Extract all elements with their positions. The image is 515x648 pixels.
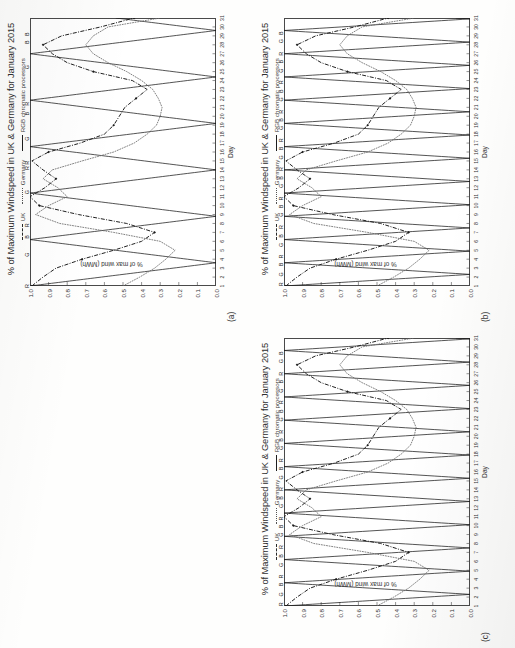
x-tick-label: 28 [473, 42, 479, 48]
panel-label-b: (b) [480, 312, 490, 322]
rgb-marker-b: B [278, 438, 284, 442]
rgb-marker-b: B [278, 583, 284, 587]
x-tick-label: 12 [473, 185, 479, 191]
x-tick-label: 31 [219, 15, 225, 21]
x-tick-label: 3 [219, 267, 225, 270]
chart-title-c: % of Maximum Windspeed in UK & Germany f… [260, 334, 270, 604]
rgb-marker-b: B [278, 554, 284, 558]
x-axis-label-a: Day [227, 18, 234, 286]
x-tick-label: 30 [219, 24, 225, 30]
y-tick-label: 0.1 [194, 289, 201, 298]
x-tick-label: 14 [473, 167, 479, 173]
rgb-marker-b: B [278, 60, 284, 64]
rgb-marker-g: G [278, 272, 284, 276]
x-tick-label: 24 [473, 398, 479, 404]
rgb-marker-g: G [278, 39, 284, 43]
x-tick-label: 17 [473, 140, 479, 146]
x-tick-label: 5 [219, 249, 225, 252]
x-tick-label: 6 [473, 240, 479, 243]
x-tick-label: 11 [219, 194, 225, 199]
y-tick-label: 0.1 [448, 289, 455, 298]
rgb-marker-r: R [24, 161, 30, 165]
x-tick-label: 23 [219, 87, 225, 93]
rgb-marker-r: R [278, 372, 284, 376]
x-tick-label: 13 [473, 496, 479, 502]
legend-label-rgb: RGB chromatic processors [19, 58, 26, 132]
rgb-marker-r: R [278, 138, 284, 142]
rgb-marker-g: G [278, 155, 284, 159]
rgb-marker-r: R [24, 102, 30, 106]
y-tick-label: 0.6 [101, 289, 108, 298]
rgb-marker-r: R [278, 167, 284, 171]
x-tick-label: 26 [473, 380, 479, 386]
x-tick-label: 25 [473, 69, 479, 75]
rgb-marker-b: B [278, 409, 284, 413]
rgb-marker-b: B [278, 380, 284, 384]
x-tick-label: 6 [473, 560, 479, 563]
y-axis-label-b: % of max wind (MWh) [306, 261, 426, 268]
x-tick-label: 27 [473, 371, 479, 377]
x-tick-label: 29 [473, 353, 479, 359]
chart-legend-a: UK Germany RGB chromatic processors [19, 14, 26, 284]
x-tick-label: 20 [473, 433, 479, 439]
x-tick-label: 3 [473, 587, 479, 590]
x-tick-label: 8 [219, 222, 225, 225]
x-tick-label: 22 [219, 96, 225, 102]
x-tick-label: 18 [473, 131, 479, 137]
y-tick-label: 1.0 [281, 609, 288, 618]
x-axis-label-c: Day [481, 338, 488, 606]
x-tick-label: 7 [219, 231, 225, 234]
rgb-marker-r: R [278, 110, 284, 114]
x-tick-label: 16 [473, 149, 479, 155]
x-tick-label: 16 [219, 149, 225, 155]
chart-panel-c: (c) % of Maximum Windspeed in UK & Germa… [258, 326, 510, 644]
x-tick-label: 13 [473, 176, 479, 182]
rgb-marker-r: R [278, 458, 284, 462]
y-tick-label: 0.5 [374, 289, 381, 298]
x-tick-label: 1 [473, 285, 479, 288]
x-tick-label: 31 [473, 335, 479, 341]
rgb-marker-r: R [278, 197, 284, 201]
x-tick-label: 9 [473, 213, 479, 216]
rgb-marker-b: B [278, 263, 284, 267]
rgb-marker-g: G [278, 592, 284, 596]
x-tick-label: 15 [219, 158, 225, 164]
y-tick-label: 0.4 [138, 289, 145, 298]
rgb-marker-g: G [278, 243, 284, 247]
x-tick-label: 18 [219, 131, 225, 137]
rgb-marker-r: R [24, 284, 30, 288]
rgb-marker-r: R [24, 223, 30, 227]
x-tick-label: 22 [473, 416, 479, 422]
rgb-marker-b: B [24, 32, 30, 36]
panel-c-inner: (c) % of Maximum Windspeed in UK & Germa… [258, 326, 510, 644]
rgb-marker-g: G [278, 126, 284, 130]
scanned-page: (a) % of Maximum Windspeed in UK & Germa… [0, 0, 515, 648]
rgb-marker-g: G [278, 184, 284, 188]
x-tick-label: 28 [219, 42, 225, 48]
x-tick-label: 11 [473, 194, 479, 199]
x-tick-label: 4 [219, 258, 225, 261]
rgb-marker-b: B [278, 118, 284, 122]
x-tick-label: 23 [473, 87, 479, 93]
panel-label-c: (c) [480, 632, 490, 642]
x-tick-label: 7 [473, 551, 479, 554]
rgb-marker-r: R [278, 80, 284, 84]
plot-svg-b [284, 18, 470, 286]
y-tick-label: 1.0 [281, 289, 288, 298]
y-tick-label: 0.0 [213, 289, 220, 298]
x-tick-label: 8 [473, 222, 479, 225]
y-tick-label: 0.1 [448, 609, 455, 618]
rgb-marker-g: G [24, 65, 30, 69]
panel-a-inner: (a) % of Maximum Windspeed in UK & Germa… [4, 6, 256, 324]
rgb-marker-b: B [24, 40, 30, 44]
rgb-marker-g: G [24, 253, 30, 257]
panel-label-a: (a) [226, 312, 236, 322]
y-tick-label: 0.7 [336, 609, 343, 618]
x-tick-label: 10 [473, 203, 479, 209]
x-tick-label: 21 [473, 424, 479, 430]
x-tick-label: 25 [473, 389, 479, 395]
x-axis-label-b: Day [481, 18, 488, 286]
x-tick-label: 19 [473, 122, 479, 128]
rgb-marker-r: R [24, 166, 30, 170]
x-tick-label: 4 [473, 258, 479, 261]
